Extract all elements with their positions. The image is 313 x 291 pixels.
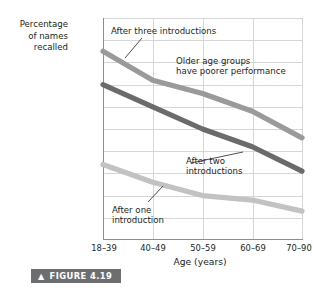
x-tick-label: 18–39 <box>91 243 117 253</box>
y-axis-title: Percentage of names recalled <box>2 19 68 54</box>
x-tick-label: 40–49 <box>140 243 166 253</box>
x-tick-label: 70–90 <box>286 243 312 253</box>
figure-container: Percentage of names recalled 100% 90 80 … <box>0 0 313 291</box>
annotation-after-one-introduction: After one introduction <box>112 205 164 226</box>
figure-caption-label: FIGURE 4.19 <box>50 271 113 281</box>
annotation-older-age-groups: Older age groups have poorer performance <box>176 56 286 77</box>
x-tick-label: 50–59 <box>190 243 216 253</box>
annotation-after-three-introductions: After three introductions <box>111 26 216 36</box>
annotation-after-two-introductions: After two introductions <box>186 156 242 177</box>
x-axis-title: Age (years) <box>100 256 300 267</box>
caret-up-icon: ▲ <box>38 271 45 280</box>
figure-caption-banner: ▲ FIGURE 4.19 <box>31 269 121 283</box>
x-tick-label: 60–69 <box>240 243 266 253</box>
